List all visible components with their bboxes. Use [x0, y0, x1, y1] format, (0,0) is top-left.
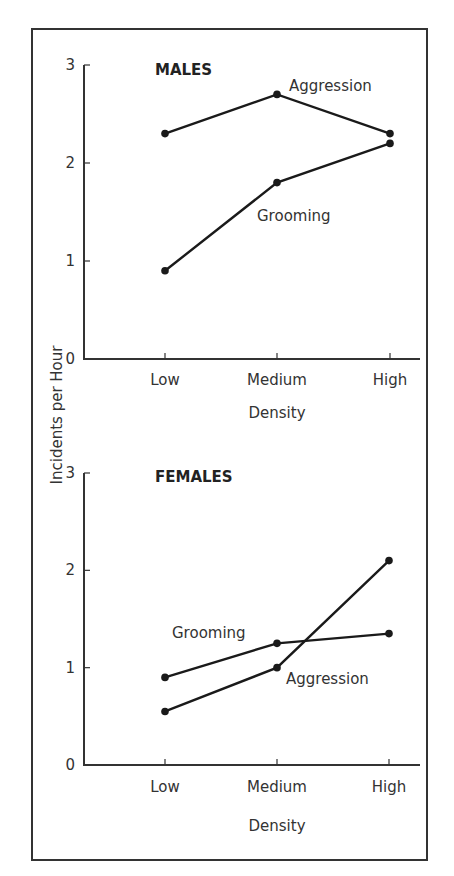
x-tick-label: Low [150, 371, 180, 389]
y-tick-label: 3 [65, 56, 75, 74]
x-tick-label: Medium [247, 371, 307, 389]
y-tick-label: 1 [65, 659, 75, 677]
series-label-aggression: Aggression [289, 77, 372, 95]
x-axis-label: Density [248, 817, 305, 835]
series-label-grooming: Grooming [172, 624, 246, 642]
data-point [386, 130, 394, 138]
data-point [273, 179, 281, 187]
series-line-aggression [165, 94, 390, 133]
y-axis-label: Incidents per Hour [48, 345, 66, 485]
y-tick-label: 2 [65, 561, 75, 579]
y-tick-label: 2 [65, 154, 75, 172]
panel-females: 0123LowMediumHighDensityFEMALESGroomingA… [65, 464, 420, 835]
data-point [385, 630, 393, 638]
axes [84, 473, 420, 765]
data-point [273, 640, 281, 648]
panel-males: 0123LowMediumHighDensityMALESAggressionG… [65, 56, 420, 422]
data-point [161, 674, 169, 682]
x-tick-label: High [373, 371, 407, 389]
data-point [273, 664, 281, 672]
data-point [386, 140, 394, 148]
x-axis-label: Density [248, 404, 305, 422]
series-label-aggression: Aggression [286, 670, 369, 688]
x-tick-label: Medium [247, 778, 307, 796]
y-tick-label: 1 [65, 252, 75, 270]
data-point [161, 708, 169, 716]
chart: Incidents per Hour 0123LowMediumHighDens… [0, 0, 454, 876]
data-point [273, 91, 281, 99]
y-tick-label: 0 [65, 350, 75, 368]
y-tick-label: 0 [65, 756, 75, 774]
axes [84, 65, 420, 359]
panel-title: FEMALES [155, 468, 233, 486]
data-point [385, 557, 393, 565]
panel-title: MALES [155, 61, 212, 79]
x-tick-label: Low [150, 778, 180, 796]
y-tick-label: 3 [65, 464, 75, 482]
series-label-grooming: Grooming [257, 207, 331, 225]
x-tick-label: High [372, 778, 406, 796]
data-point [161, 267, 169, 275]
data-point [161, 130, 169, 138]
